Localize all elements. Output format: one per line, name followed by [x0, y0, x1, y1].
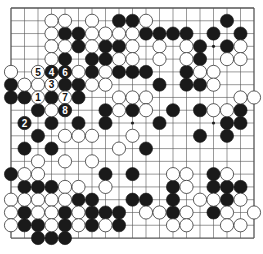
- white-stone: [31, 168, 44, 181]
- black-stone: [58, 219, 71, 232]
- black-stone: [193, 53, 206, 66]
- white-stone: [180, 219, 193, 232]
- move-number-label: 6: [62, 67, 68, 78]
- black-stone: [126, 168, 139, 181]
- white-stone: [4, 206, 17, 219]
- black-stone: [99, 206, 112, 219]
- white-stone: [31, 155, 44, 168]
- white-stone: [72, 65, 85, 78]
- white-stone: [180, 206, 193, 219]
- black-stone: [31, 104, 44, 117]
- black-stone: [139, 65, 152, 78]
- white-stone: [58, 14, 71, 27]
- black-stone: [99, 53, 112, 66]
- black-stone: [180, 78, 193, 91]
- white-stone: [153, 53, 166, 66]
- white-stone: [207, 193, 220, 206]
- white-stone: [234, 53, 247, 66]
- black-stone: [220, 14, 233, 27]
- star-point: [212, 45, 215, 48]
- white-stone: [45, 40, 58, 53]
- black-stone: [58, 27, 71, 40]
- black-stone: [220, 180, 233, 193]
- black-stone: [85, 65, 98, 78]
- white-stone: [85, 155, 98, 168]
- black-stone: [234, 116, 247, 129]
- white-stone: [45, 14, 58, 27]
- black-stone: [112, 219, 125, 232]
- move-number-label: 8: [62, 105, 68, 116]
- black-stone: [18, 180, 31, 193]
- black-stone: [126, 104, 139, 117]
- white-stone: [72, 180, 85, 193]
- white-stone: [166, 168, 179, 181]
- black-stone: [153, 116, 166, 129]
- black-stone: [31, 129, 44, 142]
- white-stone: [58, 180, 71, 193]
- white-stone: [45, 27, 58, 40]
- white-stone: [220, 53, 233, 66]
- white-stone: [99, 27, 112, 40]
- white-stone: [72, 206, 85, 219]
- white-stone: [220, 104, 233, 117]
- white-stone: [45, 104, 58, 117]
- white-stone: [207, 65, 220, 78]
- white-stone: [18, 78, 31, 91]
- black-stone: [4, 168, 17, 181]
- black-stone: [180, 65, 193, 78]
- black-stone: [45, 142, 58, 155]
- white-stone: [112, 104, 125, 117]
- black-stone: [234, 104, 247, 117]
- white-stone: [112, 27, 125, 40]
- white-stone: [220, 168, 233, 181]
- black-stone: [85, 206, 98, 219]
- white-stone: [112, 91, 125, 104]
- black-stone: [166, 104, 179, 117]
- black-stone: [72, 91, 85, 104]
- black-stone: [126, 65, 139, 78]
- move-number-label: 7: [62, 92, 68, 103]
- black-stone: [72, 78, 85, 91]
- white-stone: [139, 104, 152, 117]
- white-stone: [4, 219, 17, 232]
- white-stone: [247, 91, 260, 104]
- black-stone: [139, 193, 152, 206]
- black-stone: [220, 116, 233, 129]
- black-stone: [58, 78, 71, 91]
- white-stone: [207, 78, 220, 91]
- black-stone: [58, 53, 71, 66]
- black-stone: [45, 91, 58, 104]
- black-stone: [193, 104, 206, 117]
- black-stone: [112, 40, 125, 53]
- white-stone: [220, 219, 233, 232]
- numbered-move-3: 3: [45, 78, 58, 91]
- white-stone: [58, 129, 71, 142]
- white-stone: [85, 129, 98, 142]
- black-stone: [72, 116, 85, 129]
- numbered-move-8: 8: [58, 104, 71, 117]
- black-stone: [85, 219, 98, 232]
- numbered-move-7: 7: [58, 91, 71, 104]
- star-point: [131, 121, 134, 124]
- black-stone: [166, 27, 179, 40]
- white-stone: [58, 40, 71, 53]
- white-stone: [18, 193, 31, 206]
- white-stone: [85, 27, 98, 40]
- white-stone: [126, 129, 139, 142]
- white-stone: [126, 27, 139, 40]
- white-stone: [99, 78, 112, 91]
- black-stone: [72, 40, 85, 53]
- black-stone: [99, 116, 112, 129]
- white-stone: [126, 53, 139, 66]
- numbered-move-4: 4: [45, 65, 58, 78]
- black-stone: [18, 219, 31, 232]
- black-stone: [31, 180, 44, 193]
- black-stone: [234, 180, 247, 193]
- white-stone: [166, 219, 179, 232]
- white-stone: [72, 129, 85, 142]
- white-stone: [112, 142, 125, 155]
- white-stone: [99, 219, 112, 232]
- white-stone: [99, 180, 112, 193]
- black-stone: [85, 53, 98, 66]
- black-stone: [112, 14, 125, 27]
